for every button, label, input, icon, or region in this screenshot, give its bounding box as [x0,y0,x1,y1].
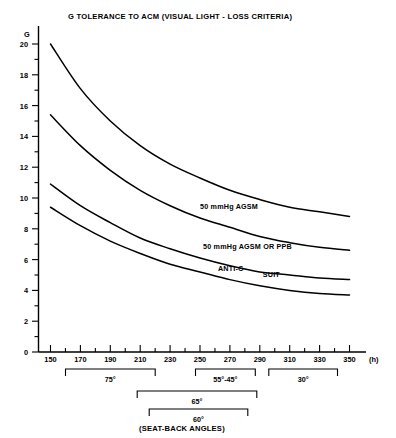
y-tick-label: 8 [10,225,28,234]
x-tick-label: 230 [158,355,182,364]
y-tick-label: 12 [10,163,28,172]
x-tick-label: 150 [39,355,63,364]
y-tick-label: 10 [10,194,28,203]
y-tick-label: 14 [10,132,28,141]
curve-unlabeled-top-curve [51,44,350,216]
x-tick-label: 310 [278,355,302,364]
x-tick-label: 270 [218,355,242,364]
axes [39,26,367,352]
bracket-label: 75° [86,375,134,384]
curve-label: ANTI-G [218,264,244,273]
y-tick-label: 2 [10,317,28,326]
curve-50-mmhg-agsm [51,115,350,251]
y-axis-ticks [32,44,39,352]
y-tick-label: 18 [10,71,28,80]
x-tick-label: 250 [188,355,212,364]
x-tick-label: 350 [338,355,362,364]
y-tick-label: 20 [10,40,28,49]
bracket-label: 30° [279,375,327,384]
bracket-label: 60° [175,415,223,424]
data-curves [51,44,350,295]
plot-area [0,0,396,438]
curve-label: SUIT [263,270,280,279]
x-tick-label: 190 [98,355,122,364]
bracket-label: 65° [173,397,221,406]
x-tick-label: 210 [128,355,152,364]
y-tick-label: 16 [10,102,28,111]
y-tick-label: 6 [10,256,28,265]
y-tick-label: 4 [10,286,28,295]
y-tick-label: 0 [10,348,28,357]
curve-anti-g-suit [51,207,350,295]
chart-figure: G TOLERANCE TO ACM (VISUAL LIGHT - LOSS … [0,0,396,438]
x-axis-ticks [51,345,350,352]
curve-label: 50 mmHg AGSM OR PPB [203,242,292,251]
x-tick-label: 170 [68,355,92,364]
bracket-label: 55°-45° [201,375,249,384]
x-tick-label: 330 [308,355,332,364]
curve-label: 50 mmHg AGSM [200,202,258,211]
curve-50-mmhg-agsm-or-ppb [51,184,350,279]
x-tick-label: 290 [248,355,272,364]
